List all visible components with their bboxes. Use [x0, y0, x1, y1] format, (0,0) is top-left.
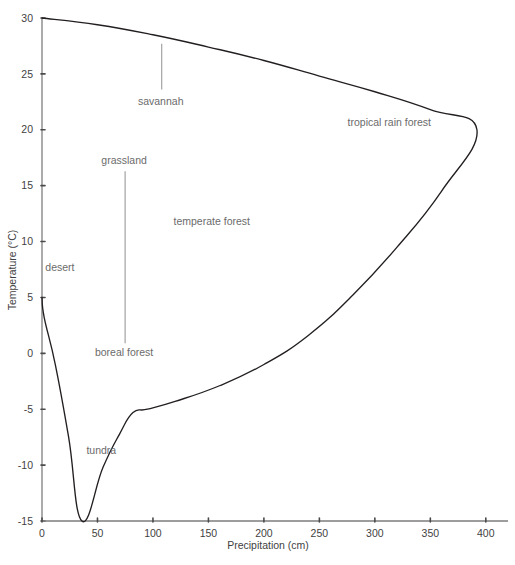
- y-axis-title: Temperature (°C): [6, 230, 18, 311]
- x-tick-label: 350: [422, 527, 440, 539]
- y-tick-label: 5: [27, 291, 33, 303]
- biome-label-desert: desert: [45, 261, 74, 273]
- y-tick-label: 30: [21, 12, 33, 24]
- x-tick-label: 250: [311, 527, 329, 539]
- biome-label-temperate-forest: temperate forest: [174, 215, 251, 227]
- biome-label-grassland: grassland: [101, 154, 147, 166]
- x-tick-label: 100: [144, 527, 162, 539]
- biome-label-tundra: tundra: [86, 444, 116, 456]
- chart-canvas: -15-10-5051015202530 0501001502002503003…: [0, 0, 515, 565]
- biome-label-savannah: savannah: [138, 95, 184, 107]
- x-tick-label: 150: [200, 527, 218, 539]
- y-tick-label: -5: [24, 403, 33, 415]
- x-tick-label: 400: [477, 527, 495, 539]
- x-axis-title: Precipitation (cm): [227, 539, 309, 551]
- biome-label-boreal-forest: boreal forest: [95, 346, 153, 358]
- x-tick-label: 0: [39, 527, 45, 539]
- y-tick-label: 20: [21, 123, 33, 135]
- y-tick-label: -15: [18, 515, 33, 527]
- x-tick-label: 300: [366, 527, 384, 539]
- x-tick-label: 50: [92, 527, 104, 539]
- y-tick-label: -10: [18, 459, 33, 471]
- chart-background: [0, 0, 515, 565]
- y-tick-label: 10: [21, 235, 33, 247]
- y-tick-label: 25: [21, 68, 33, 80]
- biome-label-tropical-rain-forest: tropical rain forest: [348, 116, 432, 128]
- x-tick-label: 200: [255, 527, 273, 539]
- y-tick-label: 0: [27, 347, 33, 359]
- y-tick-label: 15: [21, 179, 33, 191]
- whittaker-biome-chart: -15-10-5051015202530 0501001502002503003…: [0, 0, 515, 565]
